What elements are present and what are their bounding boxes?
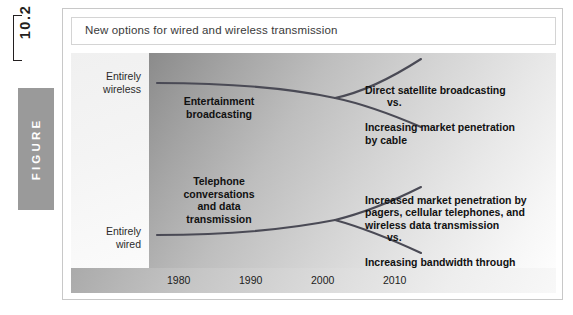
figure-caption: New options for wired and wireless trans… (85, 24, 337, 36)
figure-number-block: 10.2 (12, 12, 52, 68)
x-tick-label: 1980 (167, 274, 190, 286)
figure-frame: New options for wired and wireless trans… (62, 8, 563, 300)
plot-panel: Entertainment broadcasting Telephone con… (149, 53, 556, 268)
chart-area: Entirely wireless Entirely wired (71, 53, 556, 293)
label-telephone-conversations: Telephone conversations and data transmi… (163, 175, 275, 225)
y-axis-label-bottom: Entirely wired (77, 225, 141, 250)
figure-caption-bar: New options for wired and wireless trans… (71, 17, 556, 45)
label-satellite-line-b: Increasing market penetration by cable (365, 121, 515, 146)
x-tick-label: 1990 (239, 274, 262, 286)
figure-word-box: FIGURE (18, 88, 54, 210)
label-satellite-line-a: Direct satellite broadcasting (365, 84, 506, 96)
figure-word-label: FIGURE (26, 88, 46, 210)
label-pagers-vs: vs. (365, 231, 556, 244)
label-pagers-line-a: Increased market penetration by pagers, … (365, 194, 527, 231)
y-axis-label-column: Entirely wireless Entirely wired (71, 53, 149, 268)
x-tick-label: 2010 (383, 274, 406, 286)
label-satellite-vs-cable: Direct satellite broadcasting vs. Increa… (365, 71, 555, 146)
x-tick-label: 2000 (311, 274, 334, 286)
x-axis: 1980199020002010 (149, 268, 556, 293)
label-satellite-vs: vs. (365, 96, 555, 109)
label-pagers-line-b: Increasing bandwidth through fiber optic… (365, 256, 516, 268)
figure-gutter: 10.2 FIGURE (0, 0, 60, 315)
label-pagers-vs-fiber: Increased market penetration by pagers, … (365, 181, 556, 268)
label-entertainment-broadcasting: Entertainment broadcasting (163, 95, 275, 120)
y-axis-label-top: Entirely wireless (77, 70, 141, 95)
figure-number: 10.2 (10, 0, 40, 50)
